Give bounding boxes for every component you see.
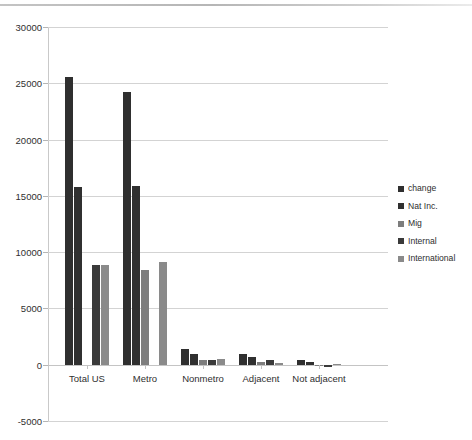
- bar: [101, 265, 109, 365]
- legend-swatch-icon: [398, 221, 404, 227]
- bar: [181, 349, 189, 365]
- legend-item-label: Nat Inc.: [408, 202, 438, 211]
- bar: [239, 354, 247, 365]
- legend-item: International: [398, 250, 472, 268]
- x-tick-mark: [203, 365, 204, 369]
- legend-item: Nat Inc.: [398, 198, 472, 216]
- bar: [248, 357, 256, 365]
- y-axis-tick-label: 20000: [0, 135, 42, 146]
- y-tick-mark: [43, 421, 48, 422]
- legend-item-label: Mig: [408, 219, 422, 228]
- bar: [306, 362, 314, 365]
- x-axis-category-label: Total US: [69, 373, 105, 384]
- bar: [190, 354, 198, 365]
- bar: [333, 364, 341, 365]
- legend-swatch-icon: [398, 186, 404, 192]
- plot-area: [48, 27, 388, 421]
- bar: [74, 187, 82, 365]
- y-axis-tick-label: 10000: [0, 247, 42, 258]
- x-axis-category-label: Nonmetro: [182, 373, 224, 384]
- legend-item-label: Internal: [408, 237, 437, 246]
- x-axis-category-label: Adjacent: [243, 373, 280, 384]
- y-axis-tick-label: 0: [0, 360, 42, 371]
- y-axis-tick-label: 5000: [0, 303, 42, 314]
- y-axis-tick-label: -5000: [0, 416, 42, 427]
- x-axis-category-label: Not adjacent: [292, 373, 345, 384]
- bar: [324, 365, 332, 368]
- y-axis-tick-label: 30000: [0, 22, 42, 33]
- legend-item-label: change: [408, 184, 436, 193]
- legend-swatch-icon: [398, 203, 404, 209]
- y-axis-tick-label: 15000: [0, 191, 42, 202]
- bar: [208, 360, 216, 365]
- legend-swatch-icon: [398, 256, 404, 262]
- legend-item: change: [398, 180, 472, 198]
- bar: [275, 363, 283, 364]
- bar: [65, 77, 73, 365]
- legend-item: Mig: [398, 215, 472, 233]
- bar: [132, 186, 140, 365]
- x-tick-mark: [319, 365, 320, 369]
- legend-item-label: International: [408, 254, 455, 263]
- x-tick-mark: [145, 365, 146, 369]
- legend-swatch-icon: [398, 238, 404, 244]
- gridline: [48, 421, 388, 422]
- bar-chart: -5000050001000015000200002500030000 Tota…: [0, 0, 472, 440]
- x-tick-mark: [261, 365, 262, 369]
- x-tick-mark: [87, 365, 88, 369]
- bar: [266, 360, 274, 365]
- x-axis-category-label: Metro: [133, 373, 157, 384]
- bar: [141, 270, 149, 365]
- bar: [92, 265, 100, 365]
- bar: [217, 359, 225, 365]
- chart-legend: changeNat Inc.MigInternalInternational: [398, 180, 472, 268]
- bar: [159, 262, 167, 364]
- y-axis-tick-label: 25000: [0, 78, 42, 89]
- legend-item: Internal: [398, 233, 472, 251]
- bar: [123, 92, 131, 364]
- bar: [297, 360, 305, 365]
